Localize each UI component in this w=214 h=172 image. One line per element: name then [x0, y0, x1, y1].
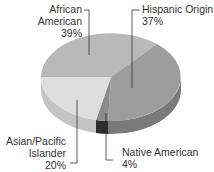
- label-hispanic-origin: Hispanic Origin 37%: [142, 3, 213, 27]
- label-native-american: Native American 4%: [122, 146, 198, 170]
- label-african-name: African American: [6, 3, 82, 27]
- label-native-name: Native American: [122, 146, 198, 158]
- label-asian-pacific: Asian/Pacific Islander 20%: [4, 135, 66, 171]
- label-asian-name-1: Asian/Pacific: [4, 135, 66, 147]
- label-native-pct: 4%: [122, 158, 198, 170]
- label-african-american: African American 39%: [6, 3, 82, 39]
- label-african-pct: 39%: [6, 27, 82, 39]
- label-asian-name-2: Islander: [4, 147, 66, 159]
- label-asian-pct: 20%: [4, 159, 66, 171]
- label-hispanic-name: Hispanic Origin: [142, 3, 213, 15]
- label-hispanic-pct: 37%: [142, 15, 213, 27]
